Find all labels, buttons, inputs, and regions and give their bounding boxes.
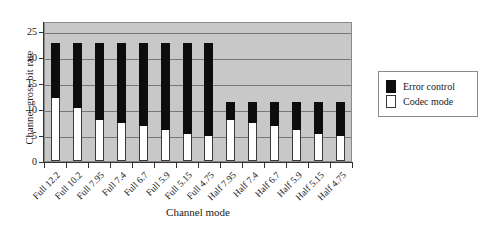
bar-segment-codec-mode [314,134,323,161]
y-axis-tick-label: 25 [27,27,37,37]
stacked-bar[interactable] [248,102,257,161]
stacked-bar[interactable] [95,43,104,161]
bar-slot [329,23,351,161]
bar-segment-codec-mode [292,130,301,161]
bar-segment-error-control [95,43,104,120]
bar-slot [45,23,67,161]
bar-segment-codec-mode [336,136,345,161]
stacked-bar[interactable] [226,102,235,161]
x-axis-tick [352,163,353,168]
plot-area [44,22,352,162]
bar-segment-error-control [248,102,257,123]
stacked-bar[interactable] [117,43,126,161]
stacked-bar[interactable] [161,43,170,161]
bar-segment-codec-mode [51,98,60,161]
y-axis-tick-label: 10 [27,105,37,115]
bar-segment-codec-mode [183,134,192,161]
stacked-bar[interactable] [336,102,345,161]
stacked-bar[interactable] [139,43,148,161]
bar-segment-error-control [336,102,345,136]
x-axis-title: Channel mode [44,206,352,218]
stacked-bar[interactable] [270,102,279,161]
y-axis-tick-label: 5 [32,131,37,141]
bar-segment-codec-mode [248,123,257,161]
x-axis-label-slot: Half 4.75 [330,168,352,208]
bar-slot [264,23,286,161]
bar-slot [111,23,133,161]
bar-segment-codec-mode [117,123,126,161]
bar-segment-codec-mode [270,126,279,161]
legend-item[interactable]: Codec mode [386,95,471,108]
stacked-bar[interactable] [314,102,323,161]
bar-segment-error-control [270,102,279,126]
legend-item-label: Codec mode [403,96,453,107]
bar-slot [285,23,307,161]
bar-segment-error-control [51,43,60,98]
bar-segment-error-control [117,43,126,123]
stacked-bar[interactable] [292,102,301,161]
bar-segment-codec-mode [204,136,213,161]
x-axis-tick-labels: Full 12.2Full 10.2Full 7.95Full 7.4Full … [44,168,352,208]
bar-segment-error-control [292,102,301,131]
stacked-bar[interactable] [51,43,60,161]
bar-segment-error-control [314,102,323,134]
y-axis: 0510152025 [0,22,44,163]
bar-slot [176,23,198,161]
bar-slot [154,23,176,161]
bar-segment-error-control [183,43,192,135]
chart-legend: Error controlCodec mode [378,71,478,117]
bar-slot [220,23,242,161]
bar-segment-codec-mode [139,126,148,161]
bar-slot [67,23,89,161]
bar-slot [132,23,154,161]
bar-segment-codec-mode [95,120,104,161]
y-axis-tick-label: 0 [32,157,37,167]
bar-slot [242,23,264,161]
bar-segment-error-control [204,43,213,137]
bar-segment-error-control [161,43,170,131]
stacked-bar[interactable] [73,43,82,161]
legend-item[interactable]: Error control [386,80,471,93]
y-axis-tick-label: 20 [27,53,37,63]
bar-segment-codec-mode [161,130,170,161]
bar-slot [307,23,329,161]
bar-segment-error-control [226,102,235,120]
black-square-swatch-icon [386,80,396,93]
bar-slot [198,23,220,161]
legend-item-label: Error control [403,81,455,92]
bar-segment-codec-mode [226,120,235,161]
bar-series-group [45,23,351,161]
stacked-bar[interactable] [204,43,213,161]
y-axis-tick-label: 15 [27,79,37,89]
bar-segment-codec-mode [73,108,82,161]
white-square-swatch-icon [386,95,396,108]
bar-slot [89,23,111,161]
stacked-bar[interactable] [183,43,192,161]
bar-segment-error-control [139,43,148,126]
bar-segment-error-control [73,43,82,108]
chart-figure: Channel gross bit rate 0510152025 Full 1… [0,0,484,229]
